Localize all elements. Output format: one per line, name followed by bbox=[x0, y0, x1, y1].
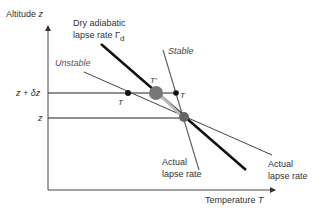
tick-z: z bbox=[38, 113, 43, 124]
label-t-prime: T′ bbox=[150, 75, 156, 86]
label-t-right: T bbox=[180, 90, 185, 101]
x-axis-label: Temperature T bbox=[205, 195, 264, 206]
tick-z-plus-dz: z + δz bbox=[16, 88, 40, 99]
unstable-label: Unstable bbox=[55, 58, 91, 69]
label-t-left: T bbox=[118, 97, 123, 108]
actual-lapse-left-2: lapse rate bbox=[162, 169, 202, 180]
actual-lapse-right-2: lapse rate bbox=[268, 171, 308, 182]
point-t-right bbox=[173, 90, 179, 96]
point-t-left bbox=[125, 90, 131, 96]
dry-adiabatic-label-2: lapse rate Γd bbox=[73, 30, 124, 44]
origin-point bbox=[179, 112, 189, 122]
stable-label: Stable bbox=[168, 46, 194, 57]
stable-lapse-line bbox=[163, 50, 199, 170]
dry-adiabatic-label-1: Dry adiabatic bbox=[73, 18, 126, 29]
actual-lapse-right-1: Actual bbox=[268, 159, 293, 170]
actual-lapse-left-1: Actual bbox=[162, 157, 187, 168]
y-axis-label: Altitude z bbox=[6, 9, 43, 20]
parcel-t-prime bbox=[149, 86, 163, 100]
diagram-canvas bbox=[0, 0, 324, 216]
